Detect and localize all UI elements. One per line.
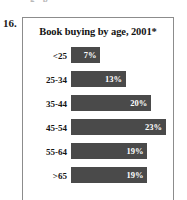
bar: 7% — [71, 47, 100, 63]
bar-row: 55-64 19% — [23, 142, 173, 166]
bar-category-label: 45-54 — [23, 123, 67, 133]
bar: 23% — [71, 119, 166, 135]
bar: 20% — [71, 95, 151, 111]
question-number: 16. — [3, 17, 17, 29]
chart-figure-box: Book buying by age, 2001* <25 7% 25-34 1… — [22, 17, 174, 200]
chart-title: Book buying by age, 2001* — [23, 26, 173, 37]
clipped-text-sliver: g p — [30, 0, 70, 2]
bar: 13% — [71, 71, 126, 87]
bar-track: 7% — [71, 47, 169, 63]
bar-value-label: 19% — [126, 147, 143, 156]
bar-track: 13% — [71, 71, 169, 87]
bar-row: 35-44 20% — [23, 94, 173, 118]
bar-category-label: 35-44 — [23, 99, 67, 109]
bar-row: <25 7% — [23, 46, 173, 70]
bar-track: 19% — [71, 143, 169, 159]
bar-track: 20% — [71, 95, 169, 111]
bar-category-label: >65 — [23, 171, 67, 181]
bar: 19% — [71, 143, 147, 159]
bar-track: 19% — [71, 167, 169, 183]
page-canvas: g p 16. Book buying by age, 2001* <25 7%… — [0, 0, 187, 200]
bar-value-label: 7% — [84, 51, 97, 60]
bar-row: 25-34 13% — [23, 70, 173, 94]
bar-chart-rows: <25 7% 25-34 13% 35-44 — [23, 46, 173, 190]
bar-row: >65 19% — [23, 166, 173, 190]
bar-category-label: <25 — [23, 51, 67, 61]
bar: 19% — [71, 167, 147, 183]
bar-row: 45-54 23% — [23, 118, 173, 142]
bar-value-label: 19% — [126, 171, 143, 180]
bar-value-label: 20% — [130, 99, 147, 108]
bar-category-label: 25-34 — [23, 75, 67, 85]
bar-category-label: 55-64 — [23, 147, 67, 157]
bar-track: 23% — [71, 119, 169, 135]
bar-value-label: 13% — [105, 75, 122, 84]
bar-value-label: 23% — [145, 123, 162, 132]
